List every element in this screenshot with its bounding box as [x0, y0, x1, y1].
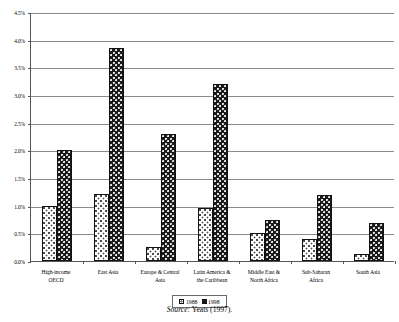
x-category-label-line: Africa	[290, 276, 342, 284]
x-category-label-line: Middle East &	[238, 268, 290, 276]
y-tick-label: 3.5%	[14, 65, 25, 71]
x-tickmark	[239, 261, 240, 264]
y-tick-label: 2.0%	[14, 148, 25, 154]
x-category-label: Sub-SaharanAfrica	[290, 268, 342, 284]
x-category-label-line: North Africa	[238, 276, 290, 284]
x-category-label-line: Latin America &	[186, 268, 238, 276]
bar-group	[83, 13, 135, 261]
dark-filled-swatch	[202, 299, 207, 304]
bar-1988	[302, 239, 317, 261]
y-axis-tick-labels: 4.5%4.0%3.5%3.0%2.5%2.0%1.5%1.0%0.5%0.0%	[0, 4, 28, 266]
source-caption: Source: Yeats (1997).	[0, 305, 399, 315]
bar-1988	[354, 254, 369, 261]
light-dotted-swatch	[179, 299, 184, 304]
y-tick-label: 1.5%	[14, 176, 25, 182]
x-tickmark	[291, 261, 292, 264]
source-label: Source:	[167, 305, 190, 314]
y-tick-label: 0.5%	[14, 231, 25, 237]
x-category-label-line: East Asia	[82, 268, 134, 276]
bar-group	[31, 13, 83, 261]
x-category-label-line: High-income	[30, 268, 82, 276]
x-category-label: Europe & CentralAsia	[134, 268, 186, 284]
plot-area: 4.5%4.0%3.5%3.0%2.5%2.0%1.5%1.0%0.5%0.0%	[0, 4, 399, 266]
y-tick-label: 2.5%	[14, 121, 25, 127]
bar-1998	[317, 195, 332, 261]
x-category-label-line: Europe & Central	[134, 268, 186, 276]
bar-1998	[265, 220, 280, 262]
bar-1988	[146, 247, 161, 261]
y-tick-label: 0.0%	[14, 259, 25, 265]
y-tick-label: 4.0%	[14, 38, 25, 44]
bar-1988	[42, 206, 57, 261]
bar-1998	[161, 134, 176, 261]
bar-group	[291, 13, 343, 261]
legend-label: 1998	[208, 299, 220, 305]
x-category-label: South Asia	[342, 268, 394, 276]
source-value: Yeats (1997).	[190, 305, 232, 314]
x-category-label-line: the Caribbean	[186, 276, 238, 284]
x-tickmark	[187, 261, 188, 264]
bar-1988	[198, 208, 213, 261]
x-category-label-line: Sub-Saharan	[290, 268, 342, 276]
x-category-label: Middle East &North Africa	[238, 268, 290, 284]
x-tickmark	[343, 261, 344, 264]
bar-1998	[369, 223, 384, 261]
x-category-label-line: South Asia	[342, 268, 394, 276]
bar-1998	[57, 150, 72, 261]
x-tickmark	[395, 261, 396, 264]
bars-layer	[31, 13, 394, 261]
legend-label: 1988	[186, 299, 198, 305]
bar-group	[187, 13, 239, 261]
bar-group	[343, 13, 395, 261]
bar-group	[135, 13, 187, 261]
y-tick-label: 4.5%	[14, 10, 25, 16]
x-category-label: High-incomeOECD	[30, 268, 82, 284]
x-category-label: Latin America &the Caribbean	[186, 268, 238, 284]
y-tick-label: 1.0%	[14, 204, 25, 210]
y-tick-label: 3.0%	[14, 93, 25, 99]
bar-1998	[213, 84, 228, 261]
plot-frame	[30, 13, 394, 262]
bar-group	[239, 13, 291, 261]
x-category-label-line: Asia	[134, 276, 186, 284]
x-category-label-line: OECD	[30, 276, 82, 284]
bar-1998	[109, 48, 124, 261]
x-tickmark	[135, 261, 136, 264]
x-category-label: East Asia	[82, 268, 134, 276]
bar-1988	[250, 233, 265, 261]
bar-1988	[94, 194, 109, 262]
x-tickmark	[83, 261, 84, 264]
y-tickmark	[28, 262, 31, 263]
figure-chart: 4.5%4.0%3.5%3.0%2.5%2.0%1.5%1.0%0.5%0.0%…	[0, 0, 399, 322]
